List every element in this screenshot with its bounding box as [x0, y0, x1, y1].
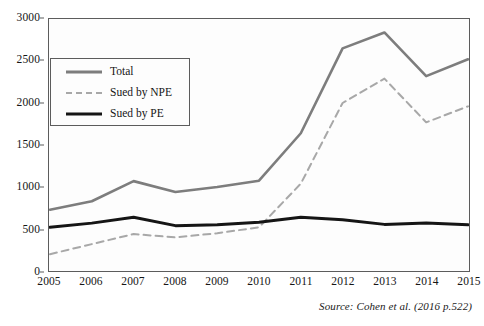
x-tick-label: 2011 — [290, 276, 313, 288]
legend-item-sued-by-pe: Sued by PE — [51, 105, 189, 123]
y-tick-mark — [40, 18, 44, 19]
x-tick-label: 2012 — [331, 276, 354, 288]
chart-figure: 050010001500200025003000 Total Sued by N… — [0, 0, 484, 326]
plot-svg — [49, 19, 469, 271]
legend-swatch-sued-by-npe-icon — [65, 87, 103, 99]
legend-swatch-sued-by-pe-icon — [65, 108, 103, 120]
x-tick-label: 2009 — [205, 276, 228, 288]
y-tick-mark — [40, 272, 44, 273]
x-tick-label: 2006 — [79, 276, 102, 288]
x-tick-label: 2015 — [457, 276, 480, 288]
y-tick-mark — [40, 187, 44, 188]
x-tick-label: 2014 — [415, 276, 438, 288]
y-tick-label: 2000 — [17, 97, 40, 109]
x-tick-label: 2008 — [163, 276, 186, 288]
x-axis: 2005200620072008200920102011201220132014… — [48, 276, 470, 296]
x-tick-label: 2010 — [247, 276, 270, 288]
legend-item-sued-by-npe: Sued by NPE — [51, 84, 189, 102]
legend-item-total: Total — [51, 63, 189, 81]
y-tick-mark — [40, 60, 44, 61]
x-tick-label: 2007 — [121, 276, 144, 288]
legend-label-sued-by-npe: Sued by NPE — [110, 87, 172, 99]
y-tick-mark — [40, 102, 44, 103]
y-tick-label: 2500 — [17, 55, 40, 67]
y-tick-mark — [40, 229, 44, 230]
y-tick-label: 3000 — [17, 12, 40, 24]
chart-legend: Total Sued by NPE Sued by PE — [50, 58, 190, 126]
legend-label-sued-by-pe: Sued by PE — [110, 108, 164, 120]
y-tick-label: 500 — [22, 224, 40, 236]
series-line-sued-by-pe — [50, 217, 468, 227]
y-tick-label: 1500 — [17, 139, 40, 151]
y-tick-label: 1000 — [17, 182, 40, 194]
x-tick-label: 2005 — [37, 276, 60, 288]
y-tick-mark — [40, 145, 44, 146]
source-note: Source: Cohen et al. (2016 p.522) — [319, 300, 472, 312]
legend-swatch-total-icon — [65, 66, 103, 78]
plot-area — [48, 18, 470, 272]
y-axis: 050010001500200025003000 — [0, 18, 44, 272]
x-tick-label: 2013 — [373, 276, 396, 288]
legend-label-total: Total — [110, 66, 133, 78]
